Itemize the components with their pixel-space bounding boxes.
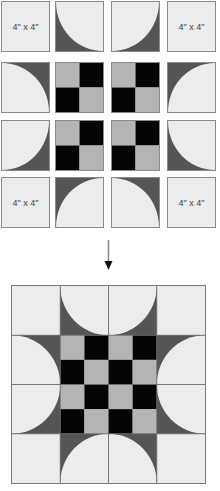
assembled-block-graphic [12, 286, 205, 483]
quarter-circle-icon [112, 2, 159, 51]
tile-checker-r2c2 [55, 62, 104, 113]
size-label: 4" x 4" [2, 178, 49, 227]
tile-curve-r2c1 [1, 62, 50, 113]
quarter-circle-icon [56, 2, 103, 51]
checkerboard-icon [112, 63, 159, 112]
checkerboard-icon [56, 121, 103, 170]
quarter-circle-icon [168, 63, 215, 112]
quarter-circle-icon [168, 121, 215, 170]
size-label: 4" x 4" [168, 2, 215, 51]
tile-curve-r3c1 [1, 120, 50, 171]
quarter-circle-icon [56, 178, 103, 227]
tile-checker-r3c2 [55, 120, 104, 171]
tile-curve-r3c4 [167, 120, 216, 171]
tile-curve-r2c4 [167, 62, 216, 113]
tile-plain-r1c4: 4" x 4" [167, 1, 216, 52]
checkerboard-icon [112, 121, 159, 170]
arrow-down-icon [104, 240, 113, 270]
quarter-circle-icon [112, 178, 159, 227]
quarter-circle-icon [2, 121, 49, 170]
tile-plain-r1c1: 4" x 4" [1, 1, 50, 52]
tile-checker-r3c3 [111, 120, 160, 171]
assembled-quilt-block [11, 285, 206, 484]
tile-plain-r4c4: 4" x 4" [167, 177, 216, 228]
size-label: 4" x 4" [168, 178, 215, 227]
tile-curve-r4c3 [111, 177, 160, 228]
tile-checker-r2c3 [111, 62, 160, 113]
size-label: 4" x 4" [2, 2, 49, 51]
tile-curve-r1c2 [55, 1, 104, 52]
quarter-circle-icon [2, 63, 49, 112]
checkerboard-icon [56, 63, 103, 112]
tile-plain-r4c1: 4" x 4" [1, 177, 50, 228]
tile-curve-r4c2 [55, 177, 104, 228]
tile-curve-r1c3 [111, 1, 160, 52]
